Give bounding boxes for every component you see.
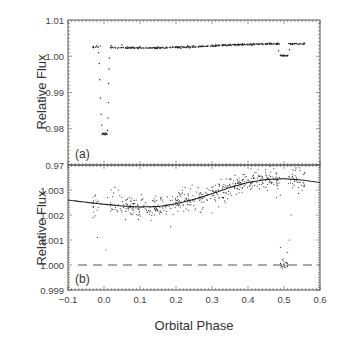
data-point [157, 204, 158, 205]
data-point [133, 204, 134, 205]
y-axis-title-a: Relative Flux [34, 54, 49, 130]
data-point [118, 204, 119, 205]
x-tick-label: 0.6 [313, 294, 326, 305]
data-point [149, 212, 150, 213]
data-point [202, 198, 203, 199]
data-point [293, 178, 294, 179]
data-point [299, 167, 300, 168]
data-point [139, 207, 140, 208]
data-point [153, 200, 154, 201]
data-point [270, 171, 271, 172]
data-point [107, 197, 108, 198]
data-point [275, 177, 276, 178]
data-point [267, 190, 268, 191]
data-point [243, 186, 244, 187]
data-point [191, 204, 192, 205]
data-point [259, 188, 260, 189]
data-point [251, 43, 252, 44]
data-point [277, 44, 278, 45]
data-point [123, 47, 124, 48]
data-point [201, 198, 202, 199]
data-point [186, 208, 187, 209]
data-point [228, 191, 229, 192]
data-point [292, 44, 293, 45]
data-point [256, 182, 257, 183]
data-point [217, 45, 218, 46]
data-point-baseline [100, 45, 101, 46]
data-point [237, 179, 238, 180]
data-point [188, 199, 189, 200]
data-point [169, 47, 170, 48]
data-point [170, 200, 171, 201]
data-point [182, 192, 183, 193]
data-point [158, 206, 159, 207]
x-tick-label: 0.4 [241, 294, 254, 305]
data-point [223, 192, 224, 193]
data-point [239, 183, 240, 184]
data-point [300, 182, 301, 183]
data-point [111, 47, 112, 48]
data-point [188, 210, 189, 211]
data-point [253, 43, 254, 44]
data-point-primary-transit [99, 79, 100, 80]
data-point [145, 46, 146, 47]
data-point-primary-transit [98, 52, 99, 53]
data-point [257, 177, 258, 178]
data-point [96, 47, 97, 48]
data-point [141, 200, 142, 201]
data-point [137, 48, 138, 49]
data-point [175, 47, 176, 48]
data-point [110, 202, 111, 203]
data-point [303, 186, 304, 187]
data-point [280, 55, 281, 56]
data-point [156, 47, 157, 48]
data-point [286, 263, 287, 264]
data-point [191, 46, 192, 47]
data-point [130, 200, 131, 201]
data-point [270, 181, 271, 182]
data-point [254, 172, 255, 173]
data-point [219, 186, 220, 187]
y-tick-label: 1.01 [46, 15, 65, 26]
data-point [281, 267, 282, 268]
data-point [175, 198, 176, 199]
data-point [250, 184, 251, 185]
data-point [292, 183, 293, 184]
data-point [178, 205, 179, 206]
data-point [133, 212, 134, 213]
data-point [234, 45, 235, 46]
data-point [241, 183, 242, 184]
data-point [160, 199, 161, 200]
data-point [151, 215, 152, 216]
data-point [93, 211, 94, 212]
data-point [120, 208, 121, 209]
data-point [115, 207, 116, 208]
data-point [243, 183, 244, 184]
data-point [241, 44, 242, 45]
data-point [212, 186, 213, 187]
data-point [279, 177, 280, 178]
data-point [222, 188, 223, 189]
data-point-transit [101, 134, 102, 135]
data-point-secondary-eclipse [278, 50, 279, 51]
data-point [133, 207, 134, 208]
data-point [188, 46, 189, 47]
data-point [251, 182, 252, 183]
data-point [288, 183, 289, 184]
data-point [269, 174, 270, 175]
data-point [217, 194, 218, 195]
data-point [237, 183, 238, 184]
data-point [285, 267, 286, 268]
data-point [177, 210, 178, 211]
data-point [273, 184, 274, 185]
data-point [162, 207, 163, 208]
data-point [228, 194, 229, 195]
data-point [154, 201, 155, 202]
data-point [196, 46, 197, 47]
data-point [239, 44, 240, 45]
data-point [303, 44, 304, 45]
data-point [120, 47, 121, 48]
data-point [143, 207, 144, 208]
data-point [207, 200, 208, 201]
data-point [180, 207, 181, 208]
